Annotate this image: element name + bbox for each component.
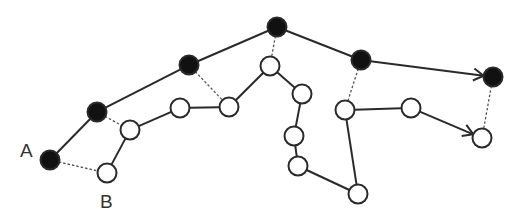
hollow-node xyxy=(285,127,304,146)
correspondence-lines xyxy=(50,27,493,173)
hollow-node xyxy=(349,185,368,204)
hollow-node xyxy=(289,157,308,176)
filled-node xyxy=(180,56,199,75)
filled-node xyxy=(484,68,503,87)
hollow-node xyxy=(473,129,492,148)
top-path-edge xyxy=(105,69,180,107)
top-path-edge xyxy=(57,119,91,153)
filled-node xyxy=(41,151,60,170)
bottom-path-edge xyxy=(346,119,356,184)
filled-node xyxy=(268,18,287,37)
diagram-canvas: A B xyxy=(0,0,518,223)
bottom-path-edge xyxy=(354,108,401,109)
bottom-path-edge xyxy=(189,107,219,108)
filled-node xyxy=(88,103,107,122)
top-path-edge xyxy=(198,31,269,61)
bottom-path-edge xyxy=(139,112,172,126)
hollow-node xyxy=(336,101,355,120)
path-nodes xyxy=(41,18,503,204)
bottom-path-edge xyxy=(236,73,264,101)
filled-node xyxy=(352,51,371,70)
hollow-node xyxy=(402,99,421,118)
hollow-node xyxy=(293,85,312,104)
hollow-node xyxy=(261,57,280,76)
label-a: A xyxy=(20,141,33,160)
bottom-path-edge xyxy=(307,170,350,190)
path-alignment-diagram xyxy=(0,0,518,223)
bottom-path-edge xyxy=(277,72,295,87)
hollow-node xyxy=(171,99,190,118)
bottom-path-edge xyxy=(295,145,296,156)
hollow-node xyxy=(98,164,117,183)
top-path-edge xyxy=(370,61,483,76)
bottom-path-edge xyxy=(111,138,125,164)
bottom-path-edge xyxy=(296,103,300,126)
hollow-node xyxy=(121,121,140,140)
top-path-edge xyxy=(286,30,352,56)
bottom-path-edge xyxy=(420,112,473,135)
label-b: B xyxy=(100,192,113,211)
hollow-node xyxy=(220,98,239,117)
